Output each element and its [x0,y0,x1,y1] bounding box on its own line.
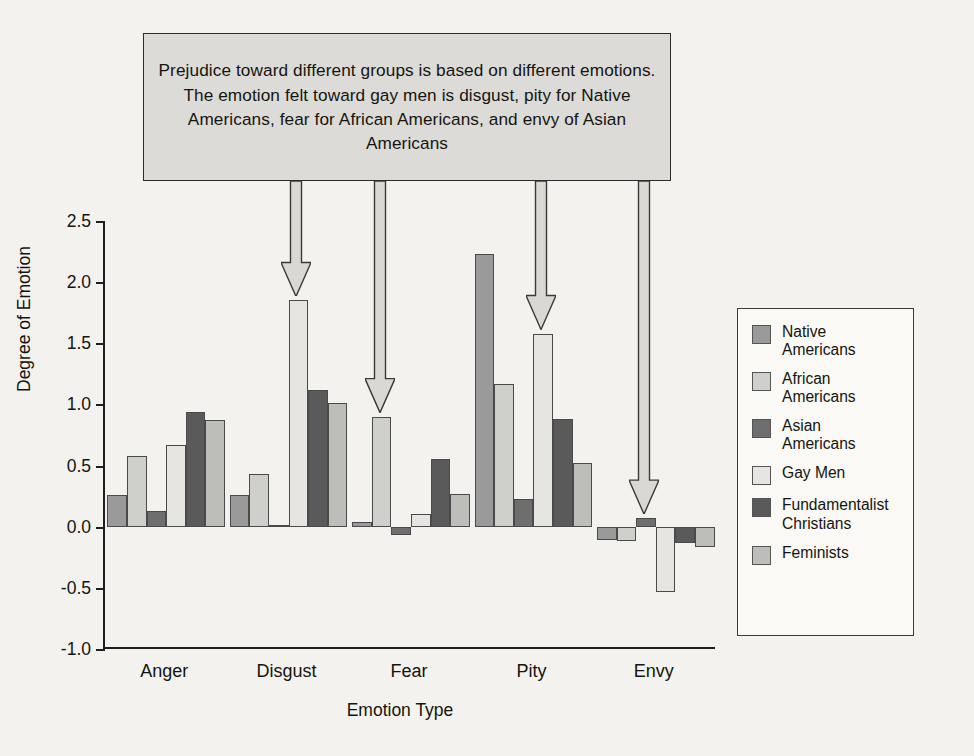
legend-item[interactable]: NativeAmericans [752,323,903,359]
bar [533,334,553,527]
x-axis-title: Emotion Type [0,700,800,721]
bar-series-container [105,221,715,647]
y-axis-tick [96,343,105,345]
legend-item[interactable]: AfricanAmericans [752,370,903,406]
y-axis-tick [96,649,105,651]
bar [107,495,127,527]
bar [695,527,715,548]
y-axis-tick-label: 2.0 [67,272,91,293]
annotation-callout: Prejudice toward different groups is bas… [143,33,671,181]
bar [656,527,676,592]
y-axis-tick [96,588,105,590]
y-axis-tick-label: 1.0 [67,394,91,415]
y-axis-tick [96,404,105,406]
legend-swatch-icon [752,546,771,565]
bar [391,527,411,536]
bar [431,459,451,526]
bar [597,527,617,540]
bar [675,527,695,543]
bar [269,525,289,527]
bar [553,419,573,527]
bar [308,390,328,527]
bar [514,499,534,527]
bar [205,420,225,526]
y-axis-tick-label: 1.5 [67,333,91,354]
legend-item[interactable]: FundamentalistChristians [752,496,903,532]
bar [573,463,593,527]
bar [186,412,206,527]
legend-item-label: AsianAmericans [782,417,856,453]
legend-item[interactable]: Gay Men [752,464,903,485]
bar [230,495,250,527]
y-axis-tick [96,527,105,529]
y-axis-tick [96,282,105,284]
y-axis-tick-label: 0.0 [67,516,91,537]
y-axis-tick-label: 2.5 [67,211,91,232]
bar [475,254,495,527]
bar [147,511,167,527]
legend-item-label: AfricanAmericans [782,370,856,406]
legend-item[interactable]: Feminists [752,544,903,565]
y-axis-title: Degree of Emotion [14,246,35,392]
legend-item-label: FundamentalistChristians [782,496,889,532]
legend-item[interactable]: AsianAmericans [752,417,903,453]
x-axis-category-label: Fear [390,661,427,682]
bar [166,445,186,527]
annotation-text: Prejudice toward different groups is bas… [158,58,656,156]
bar [328,403,348,527]
y-axis-tick-label: -0.5 [61,577,91,598]
plot-area: 2.52.01.51.00.50.0-0.5-1.0 [103,221,715,649]
bar [249,474,269,527]
chart-legend: NativeAmericansAfricanAmericansAsianAmer… [737,308,914,636]
legend-swatch-icon [752,372,771,391]
bar [617,527,637,542]
y-axis-tick-label: -1.0 [61,639,91,660]
bar [411,514,431,526]
bar [289,300,309,526]
bar [450,494,470,527]
legend-swatch-icon [752,498,771,517]
x-axis-category-label: Envy [634,661,674,682]
x-axis-category-label: Anger [140,661,188,682]
x-axis-category-label: Pity [516,661,546,682]
bar [127,456,147,527]
bar [372,417,392,527]
y-axis-tick [96,221,105,223]
y-axis-tick [96,466,105,468]
legend-item-label: Gay Men [782,464,845,482]
legend-swatch-icon [752,325,771,344]
bar [494,384,514,527]
y-axis-tick-label: 0.5 [67,455,91,476]
legend-item-label: NativeAmericans [782,323,856,359]
bar [636,518,656,527]
legend-swatch-icon [752,419,771,438]
legend-swatch-icon [752,466,771,485]
legend-item-label: Feminists [782,544,849,562]
chart-figure: Prejudice toward different groups is bas… [0,0,974,756]
x-axis-category-label: Disgust [257,661,317,682]
bar [352,522,372,527]
